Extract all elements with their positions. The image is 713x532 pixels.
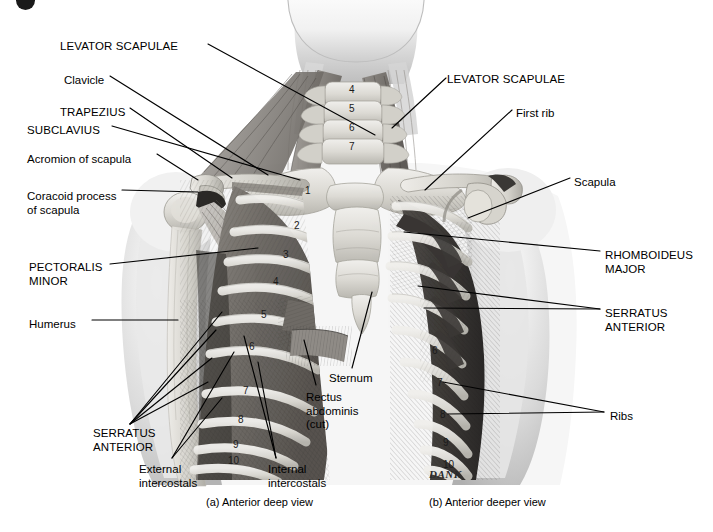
label-serratus-anterior-right: SERRATUS ANTERIOR (605, 307, 668, 334)
label-scapula: Scapula (574, 176, 616, 190)
label-rectus-abdominis-cut: Rectus abdominis (cut) (306, 391, 358, 432)
label-levator-scapulae-right: LEVATOR SCAPULAE (447, 73, 565, 87)
structure-number: 2 (294, 220, 300, 231)
label-humerus: Humerus (29, 318, 76, 332)
structure-number: 8 (440, 409, 446, 420)
label-rhomboideus-major: RHOMBOIDEUS MAJOR (605, 249, 693, 276)
structure-number: 6 (349, 122, 355, 133)
structure-number: 6 (249, 341, 255, 352)
label-acromion-of-scapula: Acromion of scapula (27, 153, 131, 167)
anatomical-figure: 456712345678910678910 LEVATOR SCAPULAECl… (0, 0, 713, 532)
caption-b: (b) Anterior deeper view (429, 496, 546, 509)
label-internal-intercostals: Internal intercostals (268, 463, 326, 490)
structure-number: 3 (283, 249, 289, 260)
structure-number: 4 (349, 84, 355, 95)
artist-signature: DANK (429, 468, 462, 480)
structure-number: 9 (443, 437, 449, 448)
label-trapezius: TRAPEZIUS (60, 106, 125, 120)
label-sternum: Sternum (329, 372, 372, 386)
structure-number: 10 (228, 455, 240, 466)
label-subclavius: SUBCLAVIUS (27, 124, 100, 138)
structure-number: 9 (233, 439, 239, 450)
label-ribs: Ribs (610, 410, 633, 424)
label-external-intercostals: External intercostals (139, 463, 197, 490)
label-first-rib: First rib (516, 107, 554, 121)
structure-number: 5 (349, 103, 355, 114)
structure-number: 7 (437, 377, 443, 388)
structure-number: 5 (261, 309, 267, 320)
structure-number: 7 (349, 141, 355, 152)
rectus-abdominis-cut-muscle (286, 326, 352, 366)
label-coracoid-process-of-scapula: Coracoid process of scapula (27, 190, 116, 217)
label-levator-scapulae-left: LEVATOR SCAPULAE (60, 40, 178, 54)
structure-number: 8 (238, 414, 244, 425)
label-serratus-anterior-left: SERRATUS ANTERIOR (93, 427, 156, 454)
structure-number: 4 (273, 276, 279, 287)
label-clavicle: Clavicle (64, 74, 104, 88)
caption-a: (a) Anterior deep view (206, 496, 313, 509)
structure-number: 7 (243, 385, 249, 396)
structure-number: 6 (432, 345, 438, 356)
label-pectoralis-minor: PECTORALIS MINOR (29, 261, 103, 288)
structure-number: 1 (305, 185, 311, 196)
